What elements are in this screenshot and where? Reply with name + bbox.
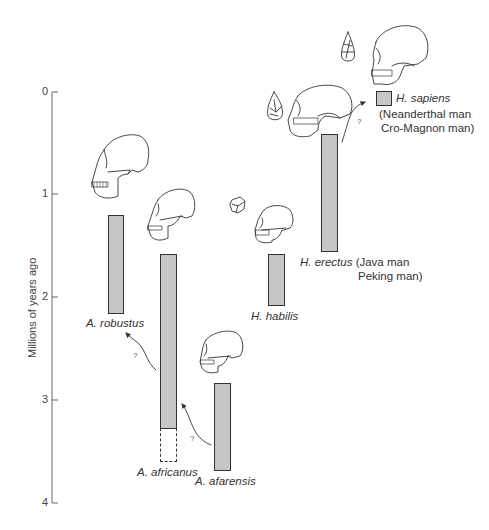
leaf-blade-icon [341, 32, 354, 61]
skull-africanus-icon [148, 189, 195, 240]
arrow-africanus-to-robustus [126, 333, 156, 370]
skull-erectus-icon [288, 85, 352, 137]
pebble-tool-icon [230, 197, 245, 213]
skull-sapiens-icon [372, 26, 428, 85]
skull-habilis-icon [255, 206, 293, 243]
arrow-afarensis-to-africanus [182, 404, 211, 445]
skull-robustus-icon [92, 135, 149, 198]
hand-axe-icon [267, 92, 282, 120]
skull-afarensis-icon [200, 331, 243, 373]
hominid-timeline-diagram: 0 1 2 3 4 Millions of years ago A. robus… [0, 0, 489, 530]
arrow-erectus-to-sapiens [342, 102, 365, 142]
